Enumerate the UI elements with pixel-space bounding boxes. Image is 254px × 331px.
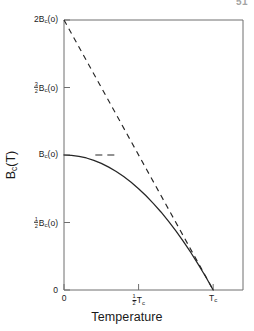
x-tick-zero-text: 0 [62,293,67,303]
plot-frame-border [64,20,243,290]
y-tick-tail-3-2-bc: (o) [48,82,58,92]
y-axis-title-base: B [4,171,18,179]
x-tick-label-zero: 0 [62,294,67,303]
figure-root: 51 2Bc(o) 32Bc(o) [0,0,254,331]
x-tick-label-tc: Tc [209,294,217,304]
y-tick-fraction-1-2: 12 [34,216,38,228]
fraction-denominator-2: 2 [34,88,38,94]
fraction-denominator-2b: 2 [34,223,38,229]
x-axis-title-text: Temperature [91,310,162,324]
y-tick-label-1-2-bc: 12Bc(o) [0,216,58,229]
x-tick-label-half-tc: 12Tc [132,294,145,307]
x-axis-title: Temperature [0,310,254,324]
y-tick-tail-1-2-bc: (o) [48,217,58,227]
x-fraction-denominator-2: 2 [132,301,136,307]
critical-field-curve [64,155,213,290]
y-tick-label-zero: 0 [0,286,58,295]
x-axis-ticks [64,284,213,290]
y-tick-tail-bc: (o) [48,149,58,159]
y-tick-zero-text: 0 [53,285,58,295]
y-axis-title-sub: c [9,167,19,171]
y-tick-tail-2bc: (o) [48,14,58,24]
plot-frame [64,20,243,290]
y-axis-title: Bc(T) [4,151,19,180]
y-tick-label-3-2-bc: 32Bc(o) [0,81,58,94]
y-tick-fraction-3-2: 32 [34,81,38,93]
y-axis-title-tail: (T) [4,151,18,167]
x-tick-fraction-1-2: 12 [132,294,136,306]
x-tick-sub-half-tc: c [142,299,145,306]
linear-extrapolation-line [64,20,213,290]
x-tick-sub-tc: c [214,296,217,303]
y-tick-label-2bc: 2Bc(o) [0,15,58,25]
plot-canvas [0,0,254,331]
